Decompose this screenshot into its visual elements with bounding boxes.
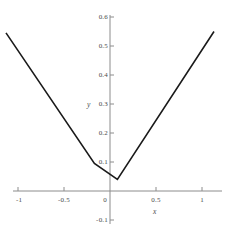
y-tick-label-0-3: 0.3 [96,100,108,108]
y-tick-label-0-5: 0.5 [96,42,108,50]
x-tick-label-pos-one: 1 [197,196,207,204]
y-tick-label-0-6: 0.6 [96,13,108,21]
x-tick-label-neg-half: -0.5 [54,196,74,204]
chart-canvas: 0.6 0.5 0.4 0.3 0.2 0.1 -0.1 -1 -0.5 0 0… [0,0,234,242]
y-tick-label-0-2: 0.2 [96,129,108,137]
y-axis-label: y [87,100,90,109]
y-tick-label-0-1: 0.1 [96,158,108,166]
y-tick-label-0-4: 0.4 [96,71,108,79]
x-axis-label: x [153,207,156,216]
x-tick-label-neg-one: -1 [12,196,26,204]
plot-graphics [0,0,234,242]
y-tick-label-neg-0-1: -0.1 [93,216,108,224]
x-tick-label-pos-half: 0.5 [147,196,165,204]
x-tick-label-zero: 0 [101,196,109,204]
